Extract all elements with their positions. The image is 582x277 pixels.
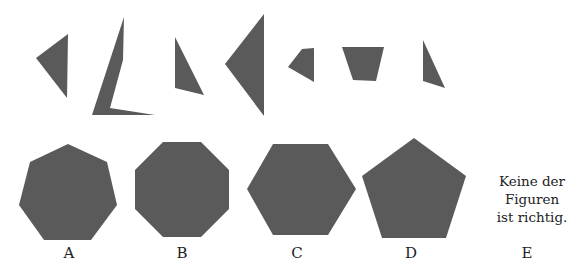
- option-label-a[interactable]: A: [64, 244, 75, 262]
- option-label-b[interactable]: B: [176, 244, 187, 262]
- option-c-hexagon[interactable]: [247, 144, 356, 235]
- puzzle-figure: ABCDE Keine der Figuren ist richtig.: [0, 0, 582, 277]
- option-e-line-2: Figuren: [497, 190, 568, 208]
- piece-5-quad: [288, 48, 314, 82]
- option-e-line-1: Keine der: [497, 172, 568, 190]
- option-d-pentagon[interactable]: [362, 138, 466, 238]
- piece-2-bent-sliver: [92, 17, 155, 115]
- piece-6-trapezoid: [342, 47, 384, 81]
- option-label-d[interactable]: D: [405, 244, 417, 262]
- option-b-octagon[interactable]: [135, 142, 229, 237]
- option-e-line-3: ist richtig.: [497, 208, 568, 226]
- option-e-text[interactable]: Keine der Figuren ist richtig.: [497, 172, 568, 226]
- piece-1-triangle: [36, 34, 68, 98]
- piece-7-triangle: [423, 40, 445, 88]
- shapes-canvas: [0, 0, 582, 277]
- piece-3-triangle: [175, 37, 204, 95]
- option-label-e[interactable]: E: [522, 244, 533, 262]
- option-a-heptagon[interactable]: [19, 144, 117, 240]
- option-label-c[interactable]: C: [291, 244, 302, 262]
- piece-4-triangle: [225, 14, 264, 116]
